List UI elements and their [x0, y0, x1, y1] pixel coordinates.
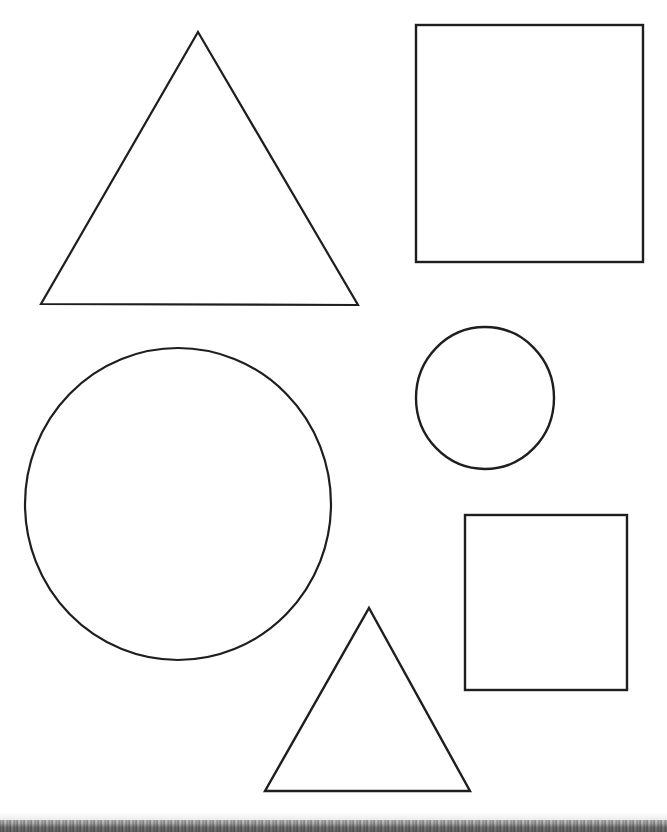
- scan-edge-artifact: [0, 820, 667, 832]
- scan-edge-fade: [0, 812, 667, 820]
- paper-background: [0, 0, 667, 832]
- worksheet-page: [0, 0, 667, 832]
- shapes-canvas: [0, 0, 667, 832]
